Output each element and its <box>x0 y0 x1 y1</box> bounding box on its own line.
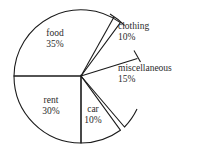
pie-label-car-name: car <box>78 104 108 115</box>
pie-chart-graphic <box>0 0 203 151</box>
pie-label-rent: rent 30% <box>29 95 73 117</box>
pie-chart-figure: food 35% rent 30% car 10% clothing 10% m… <box>0 0 203 151</box>
pie-label-food-name: food <box>33 28 77 39</box>
pie-label-car-value: 10% <box>78 115 108 126</box>
pie-label-miscellaneous: miscellaneous 15% <box>118 63 172 85</box>
pie-label-clothing: clothing 10% <box>118 21 149 43</box>
pie-label-miscellaneous-name: miscellaneous <box>118 63 172 74</box>
pie-label-rent-name: rent <box>29 95 73 106</box>
pie-label-rent-value: 30% <box>29 106 73 117</box>
pie-label-clothing-value: 10% <box>118 32 149 43</box>
pie-label-food: food 35% <box>33 28 77 50</box>
pie-label-miscellaneous-value: 15% <box>118 74 172 85</box>
slice-boundary-tick-icon <box>134 51 141 63</box>
pie-label-food-value: 35% <box>33 39 77 50</box>
pie-label-car: car 10% <box>78 104 108 126</box>
pie-label-clothing-name: clothing <box>118 21 149 32</box>
